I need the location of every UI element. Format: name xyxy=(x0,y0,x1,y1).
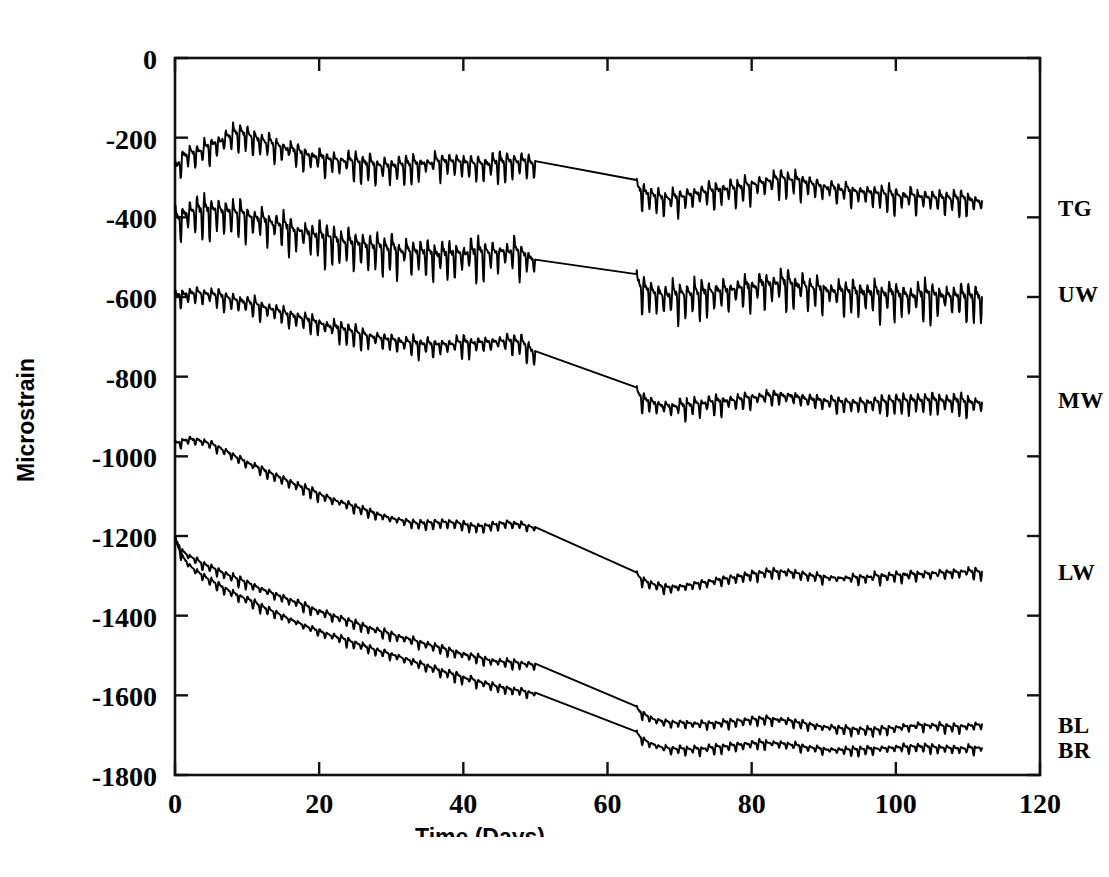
y-tick-label: -600 xyxy=(106,283,157,314)
series-label-uw: UW xyxy=(1058,282,1099,307)
x-tick-label: 100 xyxy=(875,788,917,819)
figure-container: 020406080100120 0-200-400-600-800-1000-1… xyxy=(0,0,1109,877)
y-tick-label: -1400 xyxy=(92,602,157,633)
x-axis-tick-labels: 020406080100120 xyxy=(168,788,1061,819)
series-inline-labels: TGUWMWLWBLBR xyxy=(1058,196,1104,763)
x-tick-label: 80 xyxy=(738,788,766,819)
y-tick-label: -1200 xyxy=(92,522,157,553)
y-tick-label: -400 xyxy=(106,203,157,234)
series-line-br-segment-2 xyxy=(636,730,982,756)
y-tick-label: -1000 xyxy=(92,442,157,473)
series-gap-connector-uw xyxy=(535,260,636,275)
series-gap-connector-lw xyxy=(535,527,636,572)
y-tick-label: -800 xyxy=(106,363,157,394)
series-line-br-segment-1 xyxy=(175,538,535,699)
series-line-uw-segment-2 xyxy=(636,268,982,326)
x-tick-label: 20 xyxy=(305,788,333,819)
y-tick-label: -1600 xyxy=(92,681,157,712)
series-line-tg-segment-1 xyxy=(175,122,535,185)
series-gap-connector-mw xyxy=(535,351,636,387)
series-gap-connector-tg xyxy=(535,161,636,180)
y-axis-title: Microstrain xyxy=(13,358,39,482)
y-tick-label: -1800 xyxy=(92,761,157,792)
series-gap-connector-br xyxy=(535,693,636,732)
series-label-mw: MW xyxy=(1058,388,1104,413)
series-line-tg-segment-2 xyxy=(636,170,982,219)
series-label-lw: LW xyxy=(1058,560,1095,585)
x-tick-label: 60 xyxy=(594,788,622,819)
x-tick-label: 120 xyxy=(1019,788,1061,819)
series-label-br: BR xyxy=(1058,738,1091,763)
series-line-lw-segment-1 xyxy=(175,437,535,533)
series-gap-connector-bl xyxy=(535,664,636,707)
y-tick-label: -200 xyxy=(106,124,157,155)
series-line-mw-segment-1 xyxy=(175,287,535,364)
caption-strip xyxy=(0,837,1109,877)
x-tick-label: 40 xyxy=(449,788,477,819)
x-tick-label: 0 xyxy=(168,788,182,819)
series-line-lw-segment-2 xyxy=(636,567,982,594)
series-line-bl-segment-1 xyxy=(175,537,535,670)
series-label-tg: TG xyxy=(1058,196,1092,221)
series-line-uw-segment-1 xyxy=(175,193,535,284)
y-axis-tick-labels: 0-200-400-600-800-1000-1200-1400-1600-18… xyxy=(92,44,157,792)
series-line-mw-segment-2 xyxy=(636,386,982,422)
microstrain-time-series-chart: 020406080100120 0-200-400-600-800-1000-1… xyxy=(0,0,1109,877)
series-line-bl-segment-2 xyxy=(636,706,982,737)
y-tick-label: 0 xyxy=(143,44,157,75)
series-label-bl: BL xyxy=(1058,713,1090,738)
data-curves xyxy=(175,122,982,756)
